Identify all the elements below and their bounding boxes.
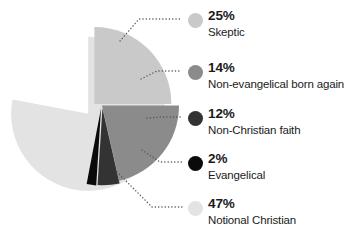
legend-label-non-evangelical-born-again: Non-evangelical born again	[208, 77, 355, 91]
legend-label-non-christian-faith: Non-Christian faith	[208, 123, 355, 137]
pie-slice-skeptic[interactable]	[94, 27, 171, 104]
legend-item-skeptic[interactable]: 25% Skeptic	[186, 8, 355, 50]
legend-swatch-evangelical	[188, 156, 203, 171]
legend-swatch-non-christian-faith	[188, 111, 203, 126]
legend-text-non-christian-faith: 12% Non-Christian faith	[208, 106, 355, 137]
legend-item-non-christian-faith[interactable]: 12% Non-Christian faith	[186, 106, 355, 148]
legend-item-notional-christian[interactable]: 47% Notional Christian	[186, 196, 355, 238]
legend-swatch-skeptic	[188, 13, 203, 28]
legend-label-evangelical: Evangelical	[208, 168, 355, 182]
legend-value-non-evangelical-born-again: 14%	[208, 60, 355, 75]
legend-value-skeptic: 25%	[208, 8, 355, 23]
chart-legend: 25% Skeptic 14% Non-evangelical born aga…	[186, 0, 355, 243]
legend-text-non-evangelical-born-again: 14% Non-evangelical born again	[208, 60, 355, 91]
legend-text-skeptic: 25% Skeptic	[208, 8, 355, 39]
legend-label-skeptic: Skeptic	[208, 25, 355, 39]
legend-value-notional-christian: 47%	[208, 196, 355, 211]
legend-swatch-notional-christian	[188, 201, 203, 216]
pie-slices	[11, 27, 179, 191]
legend-value-non-christian-faith: 12%	[208, 106, 355, 121]
legend-label-notional-christian: Notional Christian	[208, 213, 355, 227]
legend-item-evangelical[interactable]: 2% Evangelical	[186, 151, 355, 193]
legend-item-non-evangelical-born-again[interactable]: 14% Non-evangelical born again	[186, 60, 355, 102]
legend-text-evangelical: 2% Evangelical	[208, 151, 355, 182]
legend-text-notional-christian: 47% Notional Christian	[208, 196, 355, 227]
legend-value-evangelical: 2%	[208, 151, 355, 166]
legend-swatch-non-evangelical-born-again	[188, 65, 203, 80]
pie-chart-figure: 25% Skeptic 14% Non-evangelical born aga…	[0, 0, 355, 243]
